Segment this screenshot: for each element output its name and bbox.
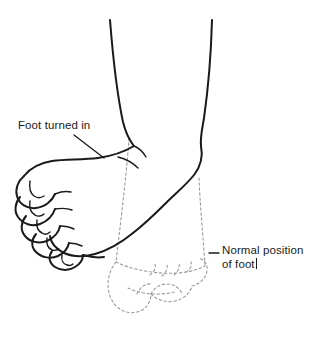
ankle-crease-tick-upper xyxy=(134,146,146,157)
toe-5-nail xyxy=(62,255,73,265)
ghost-toe-5 xyxy=(150,264,155,275)
ghost-foot-heel xyxy=(108,262,151,313)
label-normal-line-2: of foot xyxy=(222,258,255,270)
leader-line-turned-in xyxy=(74,135,104,158)
foot-sole-line xyxy=(64,233,133,256)
ghost-toe-1 xyxy=(192,258,207,286)
ghost-toe-2 xyxy=(186,262,191,272)
toe-1-crease xyxy=(55,192,71,194)
leg-contour-left xyxy=(110,20,134,146)
foot-instep-line xyxy=(24,146,134,176)
toe-2-crease xyxy=(55,208,72,210)
ghost-foot-group xyxy=(108,138,207,313)
label-foot-turned-in: Foot turned in xyxy=(18,119,90,133)
heel-outer-contour xyxy=(133,146,202,233)
leg-group xyxy=(110,20,212,146)
toe-1-outline xyxy=(16,176,55,208)
toe-1-nail xyxy=(30,181,44,198)
foot-line-drawing xyxy=(0,0,322,346)
ghost-toe-4 xyxy=(162,263,167,276)
ghost-toe-tip-arc-1 xyxy=(151,284,182,294)
ghost-guide-line-heel xyxy=(199,178,205,265)
toe-4-crease xyxy=(69,243,82,246)
toe-3-crease xyxy=(60,226,74,229)
leg-contour-right xyxy=(201,20,212,146)
solid-foot-group xyxy=(16,146,202,270)
label-normal-position: Normal positionof foot xyxy=(222,244,303,271)
illustration-figure: Foot turned in Normal positionof foot xyxy=(0,0,322,346)
ankle-crease-tick-lower xyxy=(118,157,138,168)
text-caret-mark xyxy=(256,258,257,269)
toe-3-outline xyxy=(22,216,60,242)
label-normal-line-1: Normal position xyxy=(222,244,303,256)
